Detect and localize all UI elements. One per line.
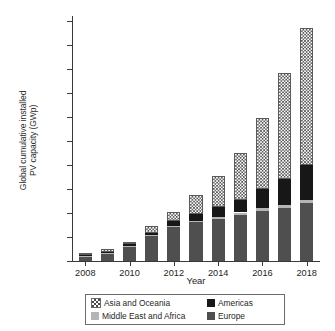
bar-segment-americas: [300, 165, 313, 200]
y-tick-mark: [67, 141, 72, 142]
bar-2016[interactable]: [256, 118, 269, 261]
y-tick: 0: [72, 261, 320, 262]
bar-segment-europe: [101, 253, 114, 261]
y-tick: 400: [72, 69, 320, 70]
bar-segment-middle-east-and-africa: [300, 200, 313, 203]
bar-2010[interactable]: [123, 242, 136, 261]
legend-swatch-middle-east-and-africa-icon: [91, 312, 99, 320]
bar-2014[interactable]: [212, 176, 225, 261]
legend-item-asia-and-oceania: Asia and Oceania: [91, 297, 207, 310]
bar-segment-americas: [101, 252, 114, 253]
bar-2008[interactable]: [79, 253, 92, 261]
legend-swatch-europe-icon: [207, 312, 215, 320]
y-tick: 450: [72, 45, 320, 46]
bar-segment-asia-and-oceania: [123, 242, 136, 245]
bar-segment-middle-east-and-africa: [123, 246, 136, 247]
x-tick-mark: [218, 262, 219, 266]
plot-area: 050100150200250300350400450500 200820102…: [72, 16, 320, 262]
bar-segment-asia-and-oceania: [189, 195, 202, 214]
y-tick-mark: [67, 189, 72, 190]
y-axis-title: Global cumulative installed PV capacity …: [18, 35, 39, 245]
bar-segment-americas: [79, 255, 92, 256]
legend-label-asia-and-oceania: Asia and Oceania: [104, 298, 170, 308]
y-tick-mark: [67, 165, 72, 166]
y-tick: 500: [72, 21, 320, 22]
y-tick-mark: [67, 237, 72, 238]
bar-segment-asia-and-oceania: [234, 153, 247, 200]
bar-segment-europe: [145, 236, 158, 261]
bar-segment-americas: [189, 214, 202, 221]
y-tick-mark: [67, 261, 72, 262]
bar-segment-asia-and-oceania: [278, 73, 291, 179]
bar-segment-asia-and-oceania: [145, 226, 158, 232]
legend-item-americas: Americas: [207, 297, 291, 310]
bar-segment-europe: [79, 256, 92, 261]
x-tick-mark: [130, 262, 131, 266]
x-tick-mark: [85, 262, 86, 266]
bar-2013[interactable]: [189, 195, 202, 261]
bar-2009[interactable]: [101, 249, 114, 261]
bar-segment-middle-east-and-africa: [167, 226, 180, 227]
bar-segment-europe: [234, 215, 247, 261]
bar-segment-europe: [300, 203, 313, 261]
bar-2012[interactable]: [167, 212, 180, 261]
legend-label-americas: Americas: [218, 298, 253, 308]
legend-item-middle-east-and-africa: Middle East and Africa: [91, 310, 207, 323]
legend-label-middle-east-and-africa: Middle East and Africa: [102, 311, 185, 321]
bar-segment-middle-east-and-africa: [278, 205, 291, 208]
bar-segment-americas: [212, 207, 225, 217]
bar-segment-asia-and-oceania: [212, 176, 225, 207]
y-tick-mark: [67, 45, 72, 46]
bar-segment-americas: [145, 233, 158, 235]
y-tick-mark: [67, 213, 72, 214]
bar-segment-europe: [212, 219, 225, 261]
bar-segment-americas: [278, 179, 291, 205]
bar-segment-asia-and-oceania: [167, 212, 180, 222]
y-tick-mark: [67, 69, 72, 70]
bar-segment-americas: [234, 200, 247, 213]
x-tick-mark: [174, 262, 175, 266]
y-tick-mark: [67, 117, 72, 118]
chart-legend: Asia and Oceania Americas Middle East an…: [85, 294, 285, 325]
bar-2011[interactable]: [145, 226, 158, 261]
y-axis-title-line-1: Global cumulative installed: [18, 35, 28, 245]
bar-segment-asia-and-oceania: [101, 249, 114, 251]
bar-segment-middle-east-and-africa: [234, 213, 247, 215]
y-tick-mark: [67, 21, 72, 22]
y-axis-title-line-2: PV capacity (GWp): [28, 35, 38, 245]
bar-segment-europe: [167, 227, 180, 261]
bar-segment-americas: [123, 244, 136, 245]
legend-swatch-asia-and-oceania-icon: [91, 298, 101, 308]
bar-segment-middle-east-and-africa: [189, 221, 202, 223]
x-tick-mark: [307, 262, 308, 266]
bar-segment-asia-and-oceania: [300, 28, 313, 166]
x-tick-mark: [262, 262, 263, 266]
legend-item-europe: Europe: [207, 310, 291, 323]
y-axis-line: [72, 16, 73, 262]
bar-2018[interactable]: [300, 28, 313, 261]
bar-segment-asia-and-oceania: [79, 253, 92, 255]
bar-2015[interactable]: [234, 153, 247, 261]
chart-figure: Global cumulative installed PV capacity …: [0, 0, 335, 331]
x-axis-title: Year: [72, 275, 320, 286]
bar-segment-middle-east-and-africa: [212, 217, 225, 219]
bar-segment-middle-east-and-africa: [256, 208, 269, 211]
bar-segment-asia-and-oceania: [256, 118, 269, 189]
bar-segment-americas: [256, 189, 269, 209]
bar-segment-europe: [256, 211, 269, 261]
bar-segment-europe: [189, 222, 202, 261]
legend-label-europe: Europe: [218, 311, 245, 321]
y-tick-mark: [67, 93, 72, 94]
legend-swatch-americas-icon: [207, 299, 215, 307]
bar-segment-europe: [278, 208, 291, 261]
bar-segment-europe: [123, 246, 136, 261]
bar-segment-americas: [167, 221, 180, 226]
bar-segment-middle-east-and-africa: [145, 235, 158, 236]
bar-2017[interactable]: [278, 73, 291, 261]
